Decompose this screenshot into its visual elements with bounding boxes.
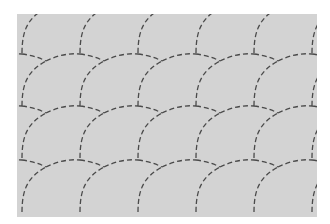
dashed-scale-lines	[17, 14, 317, 212]
scale-pattern-panel	[17, 14, 317, 217]
fish-scale-pattern	[17, 14, 317, 217]
